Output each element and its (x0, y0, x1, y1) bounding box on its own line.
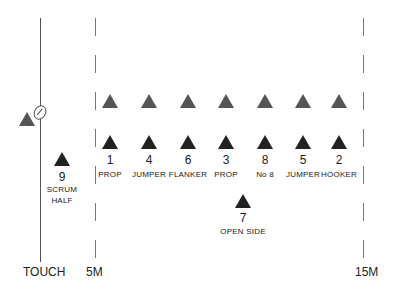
scrum-half-label: HALF (32, 195, 92, 206)
player-marker (218, 135, 234, 149)
opposition-marker (180, 94, 196, 108)
scrum-half-label: SCRUM (32, 184, 92, 195)
player-marker (331, 135, 347, 149)
player-number: 6 (168, 153, 208, 167)
fifteen-metre-line (363, 18, 364, 266)
player-number: 8 (245, 153, 285, 167)
player-number: 3 (206, 153, 246, 167)
player-number: 1 (90, 153, 130, 167)
opposition-marker (331, 94, 347, 108)
opposition-marker (218, 94, 234, 108)
touch-label: TOUCH (23, 265, 65, 279)
fifteen-metre-label: 15M (355, 265, 378, 279)
open-side-marker (235, 194, 251, 208)
open-side-label: OPEN SIDE (213, 226, 273, 237)
player-marker (257, 135, 273, 149)
player-number: 5 (283, 153, 323, 167)
opposition-marker (295, 94, 311, 108)
player-position: HOOKER (309, 169, 369, 180)
scrum-half-marker (54, 152, 70, 166)
opposition-marker (102, 94, 118, 108)
player-number: 2 (319, 153, 359, 167)
touch-line (40, 18, 41, 262)
player-marker (180, 135, 196, 149)
player-number: 4 (129, 153, 169, 167)
five-metre-label: 5M (86, 265, 103, 279)
scrum-half-number: 9 (42, 170, 82, 184)
player-marker (102, 135, 118, 149)
opposition-marker (257, 94, 273, 108)
player-marker (141, 135, 157, 149)
open-side-number: 7 (223, 211, 263, 225)
player-marker (295, 135, 311, 149)
five-metre-line (95, 18, 96, 266)
opposition-marker (141, 94, 157, 108)
